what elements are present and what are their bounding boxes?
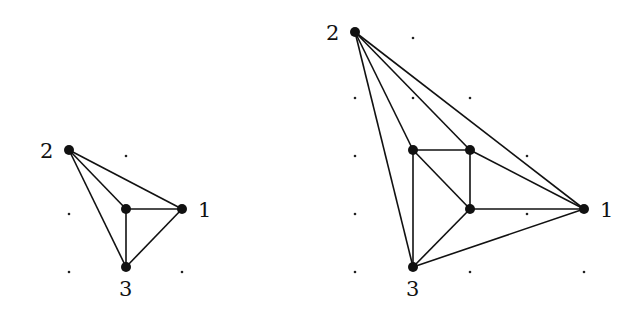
right-graph: 213	[326, 21, 613, 301]
edge-v2-a	[355, 32, 413, 150]
edge-c-v3	[413, 209, 470, 267]
grid-dot	[181, 271, 184, 274]
vertex-v2	[64, 145, 74, 155]
vertex-label-2: 2	[40, 139, 53, 163]
edge-v2-v3	[355, 32, 413, 267]
grid-dot	[412, 97, 415, 100]
grid-dot	[354, 213, 357, 216]
edge-v1-v3	[126, 209, 182, 267]
graph-diagram: 213 213	[0, 0, 639, 315]
vertex-v3	[408, 262, 418, 272]
grid-dot	[354, 97, 357, 100]
grid-dot	[412, 37, 415, 40]
edge-v2-v1	[69, 150, 182, 209]
vertex-v2	[350, 27, 360, 37]
grid-dot	[526, 213, 529, 216]
grid-dot	[125, 155, 128, 158]
vertex-a	[408, 145, 418, 155]
left-graph: 213	[40, 139, 211, 301]
edge-a-c	[413, 150, 470, 209]
vertex-label-3: 3	[406, 277, 419, 301]
vertex-c	[465, 204, 475, 214]
edge-v2-c	[69, 150, 126, 209]
vertex-label-1: 1	[600, 198, 613, 222]
edge-v2-v3	[69, 150, 126, 267]
grid-dot	[469, 271, 472, 274]
vertex-label-1: 1	[198, 198, 211, 222]
vertex-v1	[177, 204, 187, 214]
vertex-b	[465, 145, 475, 155]
grid-dot	[68, 271, 71, 274]
grid-dot	[526, 155, 529, 158]
grid-dot	[354, 155, 357, 158]
edge-b-v1	[470, 150, 584, 209]
vertex-v1	[579, 204, 589, 214]
grid-dot	[68, 213, 71, 216]
vertex-label-3: 3	[119, 277, 132, 301]
grid-dot	[583, 271, 586, 274]
vertex-v3	[121, 262, 131, 272]
vertex-c	[121, 204, 131, 214]
edge-v2-b	[355, 32, 470, 150]
grid-dot	[469, 97, 472, 100]
vertex-label-2: 2	[326, 21, 339, 45]
edge-v3-v1	[413, 209, 584, 267]
grid-dot	[354, 271, 357, 274]
